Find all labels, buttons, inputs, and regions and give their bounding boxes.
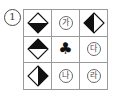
grid-cell-r1c2: 가: [52, 10, 80, 37]
grid-cell-r2c1: [24, 37, 52, 64]
circled-ra-icon: 라: [87, 69, 101, 83]
club-suit-icon: ♣: [58, 41, 72, 57]
symbol-grid: 가 ♣ 다: [23, 9, 108, 90]
diamond-right-half-filled-icon: [27, 65, 49, 87]
grid-cell-r3c3: 라: [80, 63, 108, 90]
circled-na-icon: 나: [59, 69, 73, 83]
grid-cell-r2c3: 다: [80, 37, 108, 64]
grid-cell-r3c2: 나: [52, 63, 80, 90]
diamond-left-half-filled-icon: [83, 12, 105, 34]
circled-da-icon: 다: [87, 42, 101, 56]
figure-container: 1 가: [0, 0, 115, 100]
diamond-top-half-filled-icon: [27, 38, 49, 60]
grid-cell-r1c3: [80, 10, 108, 37]
item-number-badge: 1: [4, 9, 21, 26]
diamond-bottom-half-filled-icon: [27, 12, 49, 34]
grid-cell-r2c2: ♣: [52, 37, 80, 64]
circled-ga-icon: 가: [59, 16, 73, 30]
grid-cell-r1c1: [24, 10, 52, 37]
grid-cell-r3c1: [24, 63, 52, 90]
